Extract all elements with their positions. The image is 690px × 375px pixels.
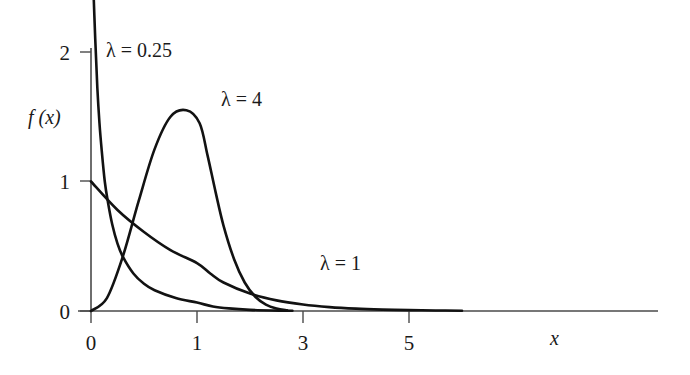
y-axis-label: f (x) <box>28 106 61 129</box>
x-tick-label-3: 3 <box>298 331 309 355</box>
chart-background <box>0 0 690 375</box>
chart-canvas: 2 1 0 0 1 3 5 f (x) x λ = 0.25 λ = 4 λ =… <box>0 0 690 375</box>
x-axis-label: x <box>549 327 559 349</box>
gamma-density-chart: 2 1 0 0 1 3 5 f (x) x λ = 0.25 λ = 4 λ =… <box>0 0 690 375</box>
series-label-lambda-0-25: λ = 0.25 <box>106 39 172 61</box>
y-tick-label-1: 1 <box>60 170 71 194</box>
x-tick-label-0: 0 <box>86 331 97 355</box>
series-label-lambda-4: λ = 4 <box>221 88 262 110</box>
y-tick-label-0: 0 <box>60 300 71 324</box>
x-tick-label-1: 1 <box>192 331 203 355</box>
series-label-lambda-1: λ = 1 <box>320 252 361 274</box>
y-tick-label-2: 2 <box>60 41 71 65</box>
x-tick-label-5: 5 <box>404 331 415 355</box>
